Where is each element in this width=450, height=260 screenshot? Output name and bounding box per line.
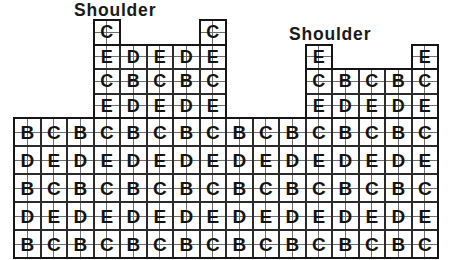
body-cell-B: B bbox=[385, 230, 412, 258]
cell-letter: C bbox=[42, 175, 67, 201]
left-shoulder-cell-D: D bbox=[173, 94, 200, 119]
cell-letter: E bbox=[201, 46, 226, 69]
body-cell-D: D bbox=[173, 202, 200, 230]
cell-letter: E bbox=[413, 147, 438, 173]
cell-letter: C bbox=[95, 231, 120, 257]
cell-letter: B bbox=[333, 70, 358, 93]
cell-letter: D bbox=[68, 203, 93, 229]
body-cell-B: B bbox=[332, 174, 359, 202]
cell-letter: C bbox=[360, 70, 385, 93]
left-shoulder-cell-C: C bbox=[94, 20, 121, 45]
cell-letter: E bbox=[201, 95, 226, 118]
cell-letter: C bbox=[360, 119, 385, 145]
cell-letter: D bbox=[174, 46, 199, 69]
body-cell-E: E bbox=[359, 146, 386, 174]
cell-letter: C bbox=[413, 119, 438, 145]
cell-letter: C bbox=[148, 231, 173, 257]
left-shoulder-cell-E: E bbox=[147, 94, 174, 119]
left-shoulder-cell-D: D bbox=[173, 45, 200, 70]
right-shoulder-cell-E: E bbox=[412, 94, 439, 119]
right-shoulder-cell-E: E bbox=[359, 94, 386, 119]
cell-letter: C bbox=[413, 175, 438, 201]
body-cell-E: E bbox=[306, 146, 333, 174]
body-cell-C: C bbox=[253, 230, 280, 258]
cell-letter: E bbox=[95, 46, 120, 69]
body-cell-C: C bbox=[41, 118, 68, 146]
right-shoulder-cell-C: C bbox=[359, 69, 386, 94]
left-shoulder-cell-B: B bbox=[173, 69, 200, 94]
body-cell-E: E bbox=[253, 146, 280, 174]
body-cell-C: C bbox=[200, 118, 227, 146]
body-cell-C: C bbox=[94, 174, 121, 202]
body-cell-D: D bbox=[120, 202, 147, 230]
cell-letter: E bbox=[307, 203, 332, 229]
cell-letter: C bbox=[201, 21, 226, 44]
body-cell-E: E bbox=[412, 146, 439, 174]
cell-letter: B bbox=[121, 231, 146, 257]
cell-letter: B bbox=[174, 175, 199, 201]
body-cell-B: B bbox=[173, 118, 200, 146]
body-cell-D: D bbox=[279, 202, 306, 230]
knitting-chart: Shoulder Shoulder CCEDEDECBCBCEDEDEEECBC… bbox=[0, 0, 450, 260]
right-shoulder-cell-C: C bbox=[412, 69, 439, 94]
chart-grid: CCEDEDECBCBCEDEDEEECBCBCEDEDEBCBCBCBCBCB… bbox=[0, 0, 450, 260]
cell-letter: E bbox=[413, 95, 438, 118]
right-shoulder-cell-E: E bbox=[306, 45, 333, 70]
body-cell-B: B bbox=[67, 174, 94, 202]
left-shoulder-cell-C: C bbox=[147, 69, 174, 94]
body-cell-E: E bbox=[306, 202, 333, 230]
body-cell-C: C bbox=[359, 174, 386, 202]
cell-letter: E bbox=[148, 203, 173, 229]
body-cell-D: D bbox=[120, 146, 147, 174]
cell-letter: C bbox=[254, 119, 279, 145]
body-cell-C: C bbox=[147, 118, 174, 146]
cell-letter: B bbox=[386, 231, 411, 257]
cell-letter: C bbox=[254, 175, 279, 201]
body-cell-C: C bbox=[412, 174, 439, 202]
cell-letter: D bbox=[121, 46, 146, 69]
body-cell-E: E bbox=[41, 202, 68, 230]
body-cell-C: C bbox=[412, 230, 439, 258]
body-cell-C: C bbox=[253, 174, 280, 202]
cell-letter: C bbox=[148, 175, 173, 201]
right-shoulder-cell-C: C bbox=[306, 69, 333, 94]
cell-letter: B bbox=[280, 231, 305, 257]
cell-letter: B bbox=[333, 231, 358, 257]
body-cell-B: B bbox=[226, 118, 253, 146]
cell-letter: D bbox=[333, 147, 358, 173]
cell-letter: E bbox=[42, 147, 67, 173]
cell-letter: B bbox=[121, 175, 146, 201]
cell-letter: D bbox=[15, 147, 40, 173]
body-cell-C: C bbox=[94, 230, 121, 258]
right-shoulder-cell-D: D bbox=[332, 94, 359, 119]
body-cell-B: B bbox=[67, 118, 94, 146]
left-shoulder-cell-E: E bbox=[94, 94, 121, 119]
cell-letter: E bbox=[307, 95, 332, 118]
cell-letter: C bbox=[360, 231, 385, 257]
body-cell-B: B bbox=[14, 174, 41, 202]
body-cell-D: D bbox=[226, 146, 253, 174]
body-cell-D: D bbox=[385, 146, 412, 174]
body-cell-E: E bbox=[412, 202, 439, 230]
body-cell-B: B bbox=[385, 174, 412, 202]
right-shoulder-cell-B: B bbox=[385, 69, 412, 94]
cell-letter: C bbox=[360, 175, 385, 201]
cell-letter: D bbox=[174, 203, 199, 229]
body-cell-C: C bbox=[41, 230, 68, 258]
body-cell-B: B bbox=[279, 174, 306, 202]
body-cell-D: D bbox=[385, 202, 412, 230]
body-cell-D: D bbox=[14, 202, 41, 230]
cell-letter: D bbox=[386, 203, 411, 229]
cell-letter: B bbox=[227, 231, 252, 257]
cell-letter: E bbox=[360, 95, 385, 118]
cell-letter: B bbox=[15, 119, 40, 145]
left-shoulder-cell-E: E bbox=[147, 45, 174, 70]
cell-letter: B bbox=[280, 175, 305, 201]
cell-letter: D bbox=[386, 95, 411, 118]
cell-letter: C bbox=[201, 231, 226, 257]
left-shoulder-cell-D: D bbox=[120, 45, 147, 70]
cell-letter: C bbox=[307, 119, 332, 145]
cell-letter: E bbox=[201, 147, 226, 173]
cell-letter: B bbox=[386, 119, 411, 145]
cell-letter: C bbox=[201, 70, 226, 93]
